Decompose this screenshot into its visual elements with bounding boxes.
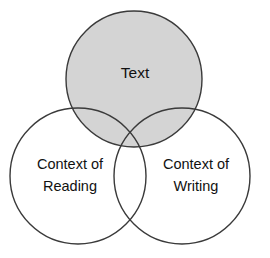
- label-text: Text: [121, 64, 150, 81]
- circle-context-of-writing: [114, 108, 250, 244]
- label-context-of-writing-line1: Context of: [163, 156, 230, 172]
- label-context-of-writing-line2: Writing: [174, 178, 219, 194]
- circle-context-of-reading: [10, 108, 146, 244]
- label-context-of-reading-line1: Context of: [37, 156, 104, 172]
- venn-diagram: Text Context of Reading Context of Writi…: [0, 0, 270, 258]
- label-context-of-reading-line2: Reading: [43, 178, 97, 194]
- venn-diagram-canvas: Text Context of Reading Context of Writi…: [0, 0, 270, 258]
